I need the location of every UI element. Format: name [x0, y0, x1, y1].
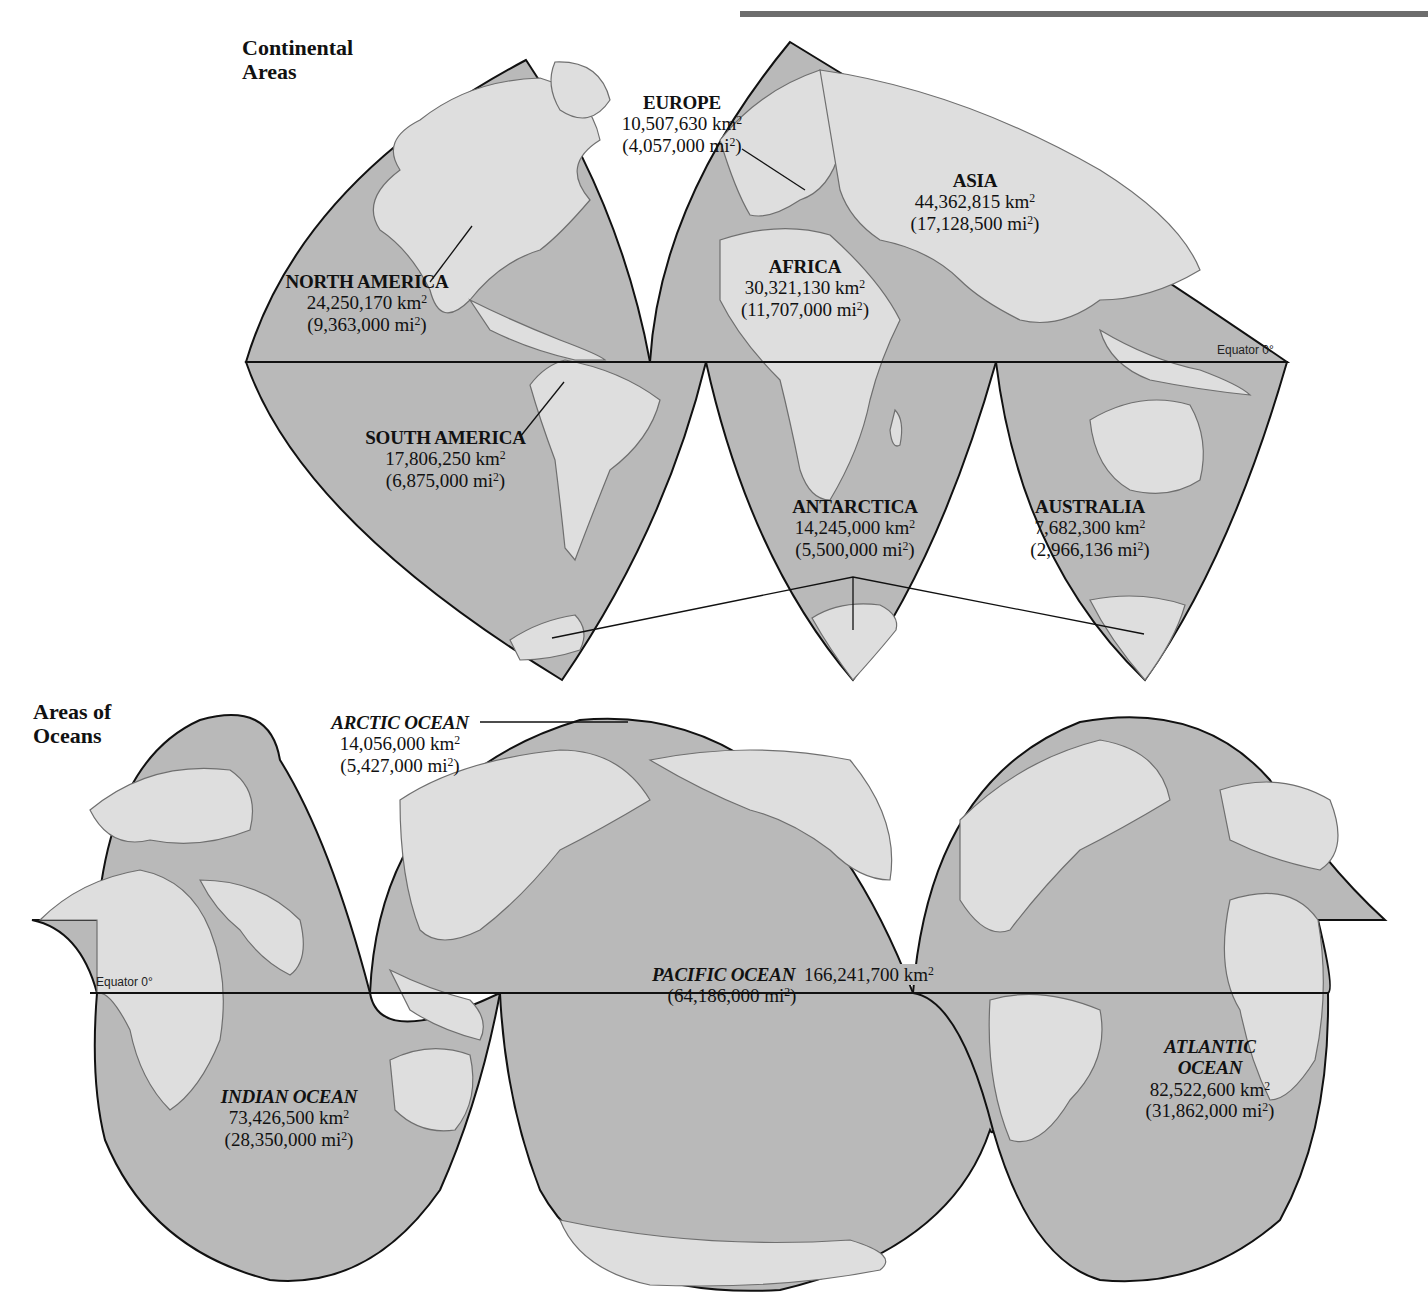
label-north-america: NORTH AMERICA 24,250,170 km2 (9,363,000 …: [272, 271, 462, 335]
land-antarctica-australia-lobe: [1090, 596, 1185, 680]
label-asia: ASIA 44,362,815 km2 (17,128,500 mi2): [905, 170, 1045, 234]
label-australia: AUSTRALIA 7,682,300 km2 (2,966,136 mi2): [1020, 496, 1160, 560]
continental-areas-title: Continental Areas: [242, 36, 353, 84]
label-atlantic-ocean: ATLANTIC OCEAN 82,522,600 km2 (31,862,00…: [1135, 1036, 1285, 1121]
land-europe-left: [90, 768, 253, 843]
equator-label-oceans: Equator 0°: [96, 975, 153, 989]
label-europe: EUROPE 10,507,630 km2 (4,057,000 mi2): [612, 92, 752, 156]
label-arctic-ocean: ARCTIC OCEAN 14,056,000 km2 (5,427,000 m…: [320, 712, 480, 776]
equator-label-continents: Equator 0°: [1217, 343, 1274, 357]
label-pacific-ocean: PACIFIC OCEAN 166,241,700 km2 (64,186,00…: [652, 964, 812, 1007]
label-indian-ocean: INDIAN OCEAN 73,426,500 km2 (28,350,000 …: [214, 1086, 364, 1150]
label-africa: AFRICA 30,321,130 km2 (11,707,000 mi2): [730, 256, 880, 320]
ocean-areas-title: Areas of Oceans: [33, 700, 111, 748]
continental-map: [246, 42, 1287, 680]
label-south-america: SOUTH AMERICA 17,806,250 km2 (6,875,000 …: [363, 427, 528, 491]
land-greenland: [551, 62, 610, 118]
label-antarctica: ANTARCTICA 14,245,000 km2 (5,500,000 mi2…: [785, 496, 925, 560]
